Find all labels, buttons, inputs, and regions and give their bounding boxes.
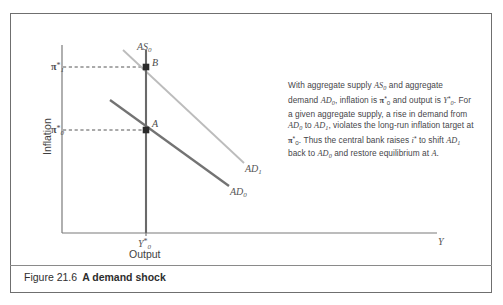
as0-label-base: AS (137, 41, 148, 52)
desc-seg-7: , violates the long-run inflation target… (328, 120, 473, 130)
ad0-label: AD0 (230, 186, 247, 199)
ad1-label-sub: 1 (258, 168, 262, 176)
desc-seg-9: to shift (417, 135, 447, 145)
point-a-marker (143, 127, 150, 134)
desc-seg-1: With aggregate supply (288, 80, 374, 90)
figure-description: With aggregate supply AS0 and aggregate … (288, 80, 474, 161)
figure-caption: Figure 21.6A demand shock (24, 271, 166, 283)
desc-seg-8: . Thus the central bank raises (299, 135, 412, 145)
desc-seg-4: and output is (390, 95, 443, 105)
desc-ad1-2: AD (446, 136, 457, 145)
ad0-curve (110, 100, 229, 186)
pi-subscript-lower: 0 (60, 129, 64, 137)
desc-seg-10: back to (288, 148, 317, 158)
as0-label-sub: 0 (148, 46, 152, 54)
desc-seg-3: , inflation is (335, 95, 380, 105)
desc-as0: AS (374, 81, 383, 90)
as0-label: AS0 (137, 41, 152, 54)
desc-ad0-2: AD (288, 121, 299, 130)
point-b-marker (143, 64, 150, 71)
ad1-label: AD1 (245, 163, 262, 176)
point-a-label: A (152, 118, 158, 129)
ad1-label-base: AD (245, 163, 258, 174)
desc-ad1-1: AD (314, 121, 325, 130)
desc-seg-11: and restore equilibrium at (332, 148, 432, 158)
desc-seg-12: . (437, 148, 439, 158)
figure-container: π*1 π*0 Y*0 Inflation Output Y AS0 AD1 A… (0, 0, 503, 305)
x-axis-title: Output (129, 248, 161, 260)
desc-ad1-2-sub: 1 (457, 139, 460, 146)
ad1-curve (123, 50, 244, 163)
caption-number: Figure 21.6 (24, 271, 77, 283)
ad0-label-sub: 0 (243, 191, 247, 199)
x-axis-symbol-label: Y (438, 236, 444, 247)
ad0-label-base: AD (230, 186, 243, 197)
desc-seg-6: to (302, 120, 314, 130)
y-tick-label-pi1: π*1 (51, 61, 64, 74)
caption-divider (10, 265, 492, 266)
desc-ad0-1: AD (321, 96, 332, 105)
y-axis-title: Inflation (41, 118, 53, 155)
pi-subscript-upper: 1 (60, 66, 64, 74)
point-b-label: B (152, 57, 158, 68)
caption-title: A demand shock (82, 271, 166, 283)
desc-ad0-3: AD (317, 149, 328, 158)
